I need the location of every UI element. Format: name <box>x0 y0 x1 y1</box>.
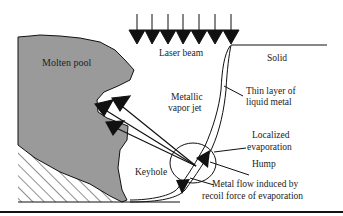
molten-pool-label: Molten pool <box>42 57 91 68</box>
vapor-jet-label-line1: Metallic <box>171 92 203 103</box>
thin-layer-label-line1: Thin layer of <box>246 86 296 97</box>
thin-layer-label-line2: liquid metal <box>246 97 292 108</box>
metal-flow-label-line1: Metal flow induced by <box>212 179 298 190</box>
hump-label: Hump <box>252 159 276 170</box>
laser-beam-arrows <box>129 14 239 44</box>
vapor-jet-label-line2: vapor jet <box>168 103 202 114</box>
metal-flow-label-line2: recoil force of evaporation <box>202 191 303 202</box>
localized-evaporation-label-line1: Localized <box>252 130 289 141</box>
solid-label: Solid <box>267 53 287 64</box>
laser-beam-label: Laser beam <box>159 48 203 59</box>
hump-arrow <box>196 150 210 168</box>
localized-evaporation-label-line2: evaporation <box>247 142 292 153</box>
keyhole-label: Keyhole <box>135 167 167 178</box>
keyhole-diagram: Molten pool Laser beam Solid Thin layer … <box>0 0 343 216</box>
